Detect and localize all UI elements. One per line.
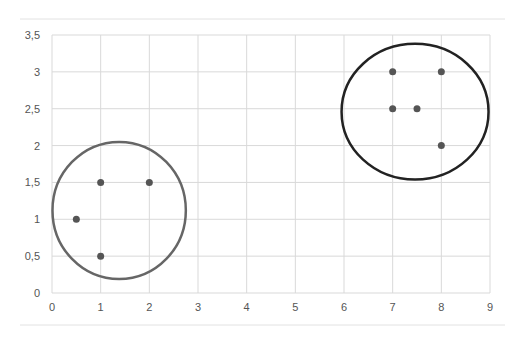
data-point bbox=[389, 105, 396, 112]
x-axis-ticks: 0123456789 bbox=[49, 301, 493, 313]
cluster-1-boundary bbox=[52, 142, 185, 279]
x-tick-label: 7 bbox=[390, 301, 396, 313]
data-point bbox=[389, 68, 396, 75]
data-point bbox=[146, 179, 153, 186]
cluster-2-boundary bbox=[342, 44, 489, 180]
x-tick-label: 6 bbox=[341, 301, 347, 313]
x-tick-label: 5 bbox=[292, 301, 298, 313]
data-point bbox=[73, 216, 80, 223]
x-tick-label: 9 bbox=[487, 301, 493, 313]
y-axis-ticks: 00,511,522,533,5 bbox=[25, 29, 40, 299]
data-point bbox=[438, 68, 445, 75]
y-tick-label: 1,5 bbox=[25, 176, 40, 188]
grid bbox=[52, 35, 490, 293]
scatter-chart: 00,511,522,533,5 0123456789 bbox=[0, 0, 524, 342]
y-tick-label: 2,5 bbox=[25, 103, 40, 115]
y-tick-label: 1 bbox=[34, 213, 40, 225]
data-point bbox=[438, 142, 445, 149]
x-tick-label: 2 bbox=[146, 301, 152, 313]
data-point bbox=[97, 179, 104, 186]
y-tick-label: 3,5 bbox=[25, 29, 40, 41]
data-points bbox=[73, 68, 445, 259]
y-tick-label: 2 bbox=[34, 140, 40, 152]
y-tick-label: 3 bbox=[34, 66, 40, 78]
data-point bbox=[97, 253, 104, 260]
x-tick-label: 4 bbox=[244, 301, 250, 313]
x-tick-label: 1 bbox=[98, 301, 104, 313]
cluster-circles bbox=[52, 44, 488, 279]
y-tick-label: 0 bbox=[34, 287, 40, 299]
x-tick-label: 0 bbox=[49, 301, 55, 313]
y-tick-label: 0,5 bbox=[25, 250, 40, 262]
x-tick-label: 8 bbox=[438, 301, 444, 313]
x-tick-label: 3 bbox=[195, 301, 201, 313]
data-point bbox=[414, 105, 421, 112]
